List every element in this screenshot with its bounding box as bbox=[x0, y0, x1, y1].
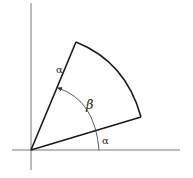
sector-bottom-edge bbox=[31, 117, 141, 150]
alpha-angle-label: α bbox=[102, 135, 109, 146]
beta-label: β bbox=[85, 97, 94, 112]
diagram-canvas: α β α bbox=[0, 0, 193, 178]
side-length-label: α bbox=[56, 64, 63, 75]
sector-left-edge bbox=[31, 42, 76, 150]
sector-diagram: α β α bbox=[0, 0, 193, 178]
